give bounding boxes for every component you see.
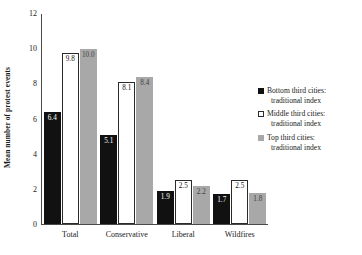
legend-swatch-icon (258, 111, 264, 117)
bar-groups: 6.4 9.8 10.0 Total 5.1 8.1 8.4 (42, 14, 268, 224)
y-tick-label: 8 (33, 80, 37, 88)
y-tick-label: 4 (33, 151, 37, 159)
bar[interactable]: 9.8 (62, 53, 79, 225)
bar-group: 6.4 9.8 10.0 Total (42, 14, 99, 224)
bar[interactable]: 5.1 (100, 135, 117, 224)
y-tick-label: 2 (33, 186, 37, 194)
legend-swatch-icon (258, 135, 264, 141)
bar-value-label: 1.9 (158, 194, 173, 201)
bar-value-label: 8.1 (119, 85, 134, 92)
legend-label-line1: Middle third cities: (267, 109, 325, 118)
bar-value-label: 8.4 (137, 80, 152, 87)
legend-item[interactable]: Top third cities:traditional index (258, 133, 362, 152)
bar-value-label: 10.0 (81, 52, 96, 59)
legend-item[interactable]: Bottom third cities:traditional index (258, 86, 362, 105)
plot-area: Mean number of protest events 0 2 4 6 8 … (41, 14, 268, 225)
bar-value-label: 2.2 (194, 189, 209, 196)
bar[interactable]: 8.1 (118, 82, 135, 224)
bar-value-label: 9.8 (63, 56, 78, 63)
bar[interactable]: 2.5 (175, 180, 192, 224)
legend-swatch-icon (258, 88, 264, 94)
x-tick-label: Wildfires (200, 231, 281, 239)
bar[interactable]: 6.4 (44, 112, 61, 224)
bar-group: 5.1 8.1 8.4 Conservative (99, 14, 156, 224)
x-axis-line (41, 224, 268, 225)
bar-value-label: 6.4 (45, 115, 60, 122)
legend-label: Bottom third cities:traditional index (267, 86, 326, 105)
legend-label-line1: Bottom third cities: (267, 86, 326, 95)
y-axis-title: Mean number of protest events (3, 42, 12, 192)
y-tick-label: 6 (33, 116, 37, 124)
bar[interactable]: 2.5 (231, 180, 248, 224)
bar-value-label: 1.8 (250, 196, 265, 203)
y-tick-label: 12 (29, 10, 37, 18)
bar-value-label: 5.1 (101, 138, 116, 145)
legend-label-line2: traditional index (267, 143, 321, 153)
legend-label-line2: traditional index (267, 96, 326, 106)
bar[interactable]: 8.4 (136, 77, 153, 224)
bar-group: 1.9 2.5 2.2 Liberal (155, 14, 212, 224)
legend-label: Top third cities:traditional index (267, 133, 321, 152)
bar[interactable]: 1.8 (249, 193, 266, 225)
bar-value-label: 2.5 (232, 183, 247, 190)
legend-label-line1: Top third cities: (267, 133, 315, 142)
bar[interactable]: 2.2 (193, 186, 210, 225)
bar-value-label: 1.7 (214, 197, 229, 204)
bar-value-label: 2.5 (176, 183, 191, 190)
bar[interactable]: 1.7 (213, 194, 230, 224)
chart-legend: Bottom third cities:traditional index Mi… (258, 86, 362, 156)
bar-chart-figure: Mean number of protest events 0 2 4 6 8 … (0, 0, 362, 255)
y-tick-label: 0 (33, 221, 37, 229)
y-tick-label: 10 (29, 45, 37, 53)
legend-label-line2: traditional index (267, 119, 325, 129)
legend-item[interactable]: Middle third cities:traditional index (258, 109, 362, 128)
bar[interactable]: 1.9 (157, 191, 174, 224)
legend-label: Middle third cities:traditional index (267, 109, 325, 128)
bar[interactable]: 10.0 (80, 49, 97, 224)
